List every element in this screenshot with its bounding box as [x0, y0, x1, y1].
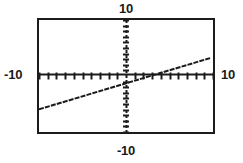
y-axis-max-label: 10	[37, 2, 215, 15]
y-axis	[123, 20, 129, 132]
x-axis-min-label: -10	[4, 68, 22, 81]
y-axis-min-label: -10	[37, 144, 215, 157]
graph-figure: 10 -10 10 -10	[0, 0, 243, 163]
plot-canvas	[39, 20, 213, 132]
x-axis-max-label: 10	[221, 68, 235, 81]
plot-frame	[37, 18, 215, 134]
